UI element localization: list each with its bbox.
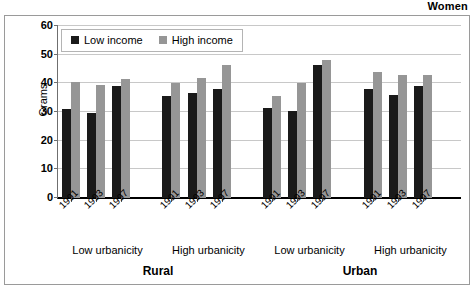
residence-label: Rural <box>57 264 259 278</box>
year-label-group: 199119931997 <box>57 201 158 241</box>
y-tick-label-40: 40 <box>41 76 53 88</box>
bar-low-income <box>112 86 121 198</box>
x-axis-year-labels: 1991199319971991199319971991199319971991… <box>57 201 461 241</box>
bar-high-income <box>222 65 231 198</box>
year-slot <box>285 26 310 198</box>
bar-high-income <box>322 60 331 198</box>
year-slot <box>310 26 335 198</box>
year-label-slot: 1997 <box>108 201 133 241</box>
year-label-slot: 1997 <box>209 201 234 241</box>
bar-high-income <box>373 72 382 198</box>
y-tick-label-20: 20 <box>41 134 53 146</box>
bar-low-income <box>313 65 322 198</box>
bar-low-income <box>288 111 297 198</box>
year-slot <box>385 26 410 198</box>
square-swatch-icon <box>159 36 167 44</box>
bar-high-income <box>121 79 130 198</box>
figure-title: Women <box>0 0 468 12</box>
bar-low-income <box>389 95 398 198</box>
year-label-spacer <box>234 201 259 241</box>
urbanicity-label: High urbanicity <box>360 244 461 256</box>
year-label-slot: 1991 <box>360 201 385 241</box>
y-tick-label-10: 10 <box>41 162 53 174</box>
legend-label: Low income <box>84 34 143 46</box>
year-slot <box>360 26 385 198</box>
residence-label: Urban <box>259 264 461 278</box>
bar-high-income <box>398 75 407 198</box>
x-axis-urbanicity-labels: Low urbanicityHigh urbanicityLow urbanic… <box>57 244 461 256</box>
bar-low-income <box>213 89 222 198</box>
bar-high-income <box>272 96 281 198</box>
bar-high-income <box>297 83 306 198</box>
year-label-slot: 1993 <box>284 201 309 241</box>
year-label-slot: 1991 <box>57 201 82 241</box>
bar-high-income <box>423 75 432 198</box>
year-label-slot: 1997 <box>411 201 436 241</box>
square-swatch-icon <box>71 36 79 44</box>
year-label-slot: 1991 <box>259 201 284 241</box>
legend-entry: Low income <box>71 34 143 46</box>
year-label-spacer <box>133 201 158 241</box>
bar-group <box>360 26 461 198</box>
urbanicity-label: Low urbanicity <box>57 244 158 256</box>
bar-high-income <box>96 85 105 198</box>
bar-low-income <box>414 86 423 198</box>
year-label-group: 199119931997 <box>158 201 259 241</box>
bar-low-income <box>162 96 171 198</box>
year-label-slot: 1993 <box>385 201 410 241</box>
bar-group <box>260 26 361 198</box>
year-slot <box>260 26 285 198</box>
bar-high-income <box>197 78 206 198</box>
x-axis-residence-labels: RuralUrban <box>57 264 461 278</box>
year-label-group: 199119931997 <box>360 201 461 241</box>
bar-low-income <box>364 89 373 198</box>
y-tick-label-50: 50 <box>41 48 53 60</box>
bar-low-income <box>263 108 272 198</box>
bar-low-income <box>87 113 96 198</box>
year-label-slot: 1993 <box>183 201 208 241</box>
y-tick-label-60: 60 <box>41 19 53 31</box>
legend-label: High income <box>172 34 233 46</box>
y-tick-label-0: 0 <box>47 191 53 203</box>
urbanicity-label: Low urbanicity <box>259 244 360 256</box>
urbanicity-label: High urbanicity <box>158 244 259 256</box>
figure: Women Grams 0102030405060 19911993199719… <box>0 0 474 289</box>
year-label-slot: 1993 <box>82 201 107 241</box>
y-tick-label-30: 30 <box>41 105 53 117</box>
year-label-slot: 1991 <box>158 201 183 241</box>
year-slot <box>411 26 436 198</box>
bar-low-income <box>62 109 71 198</box>
bar-high-income <box>171 83 180 198</box>
y-axis-title: Grams <box>37 60 49 140</box>
year-label-spacer <box>436 201 461 241</box>
legend-entry: High income <box>159 34 233 46</box>
year-label-spacer <box>335 201 360 241</box>
bar-low-income <box>188 93 197 198</box>
bar-high-income <box>71 82 80 198</box>
chart-frame: Grams 0102030405060 19911993199719911993… <box>4 15 470 285</box>
legend: Low incomeHigh income <box>61 29 243 52</box>
year-label-group: 199119931997 <box>259 201 360 241</box>
year-label-slot: 1997 <box>310 201 335 241</box>
